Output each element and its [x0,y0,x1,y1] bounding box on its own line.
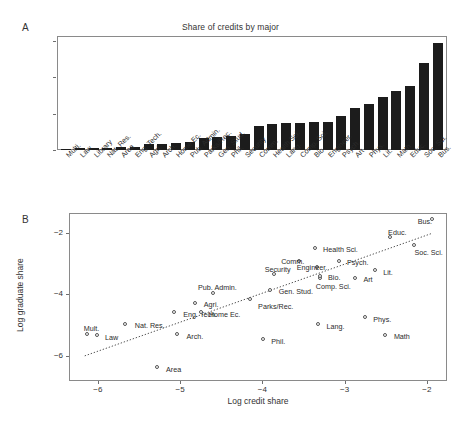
scatter-label-health-sci: Health Sci. [323,245,358,254]
scatter-point-home-ec [199,310,203,314]
panel-b-y-tick-label: −4 [54,289,63,298]
scatter-label-home-ec: Home Ec. [209,310,241,319]
scatter-point-lit [373,268,377,272]
panel-a-x-axis-labels: Multi.LawLibraryNat. Res.AreaEng. Tech.A… [0,0,461,200]
scatter-label-phil: Phil. [271,337,285,346]
scatter-label-gen-stud: Gen. Stud. [279,287,313,296]
scatter-label-pub-admin: Pub. Admin. [198,283,237,292]
scatter-label-engineer: Engineer. [297,263,327,272]
scatter-point-lang [316,322,320,326]
scatter-label-bio: Bio. [328,273,340,282]
scatter-label-lang: Lang. [326,322,344,331]
panel-b-x-tick [427,381,428,384]
scatter-point-arch [175,332,179,336]
scatter-label-law: Law [105,333,118,342]
scatter-label-agri: Agri. [204,300,219,309]
scatter-label-phys: Phys. [373,315,391,324]
panel-b-x-tick-label: −4 [250,385,274,394]
panel-b-y-tick [66,294,69,295]
panel-b-x-tick [345,381,346,384]
scatter-point-eng-tech [172,310,176,314]
scatter-label-psych: Psych. [347,258,369,267]
scatter-label-lit: Lit. [383,268,393,277]
panel-b-x-tick-label: −3 [333,385,357,394]
scatter-label-parks-rec: Parks/Rec. [258,302,293,311]
scatter-label-soc-sci: Soc. Sci. [414,248,442,257]
scatter-point-parks-rec [248,297,252,301]
scatter-point-gen-stud [268,288,272,292]
scatter-point-law [95,333,99,337]
panel-b-x-tick-label: −2 [415,385,439,394]
panel-b-y-tick-label: −6 [54,351,63,360]
scatter-label-nat-res: Nat. Res. [135,321,165,330]
scatter-label-comp-sci: Comp. Sci. [316,282,351,291]
panel-b-y-tick [66,356,69,357]
scatter-point-phil [261,337,265,341]
panel-b-letter: B [22,214,29,225]
scatter-point-area [155,365,159,369]
figure-root: A Share of credits by major 00.050.10.15… [0,0,461,424]
panel-b-x-tick-label: −5 [168,385,192,394]
panel-b-y-tick [66,233,69,234]
scatter-point-art [353,276,357,280]
panel-b-x-axis-title: Log credit share [69,396,447,406]
scatter-label-bus: Bus. [418,217,432,226]
scatter-label-arch: Arch. [187,332,204,341]
scatter-label-area: Area [166,365,181,374]
scatter-label-art: Art [363,275,372,284]
panel-b-x-tick [180,381,181,384]
scatter-point-nat-res [123,322,127,326]
panel-b-scatter-plot: B Mult.LawNat. Res.AreaArch.Eng. Tech.Ag… [0,200,461,424]
panel-b-plot-frame: Mult.LawNat. Res.AreaArch.Eng. Tech.Agri… [69,213,447,381]
panel-b-x-tick-label: −6 [86,385,110,394]
panel-b-x-tick [98,381,99,384]
scatter-point-psych [337,259,341,263]
panel-b-y-tick-label: −2 [54,228,63,237]
scatter-point-health-sci [313,246,317,250]
panel-a-bar-chart: A Share of credits by major 00.050.10.15… [0,0,461,200]
scatter-point-math [383,333,387,337]
scatter-label-educ: Educ. [388,228,406,237]
scatter-point-agri [193,301,197,305]
scatter-label-math: Math [394,332,410,341]
panel-b-x-tick [262,381,263,384]
scatter-point-soc-sci [412,243,416,247]
scatter-label-mult: Mult. [84,324,100,333]
panel-b-y-axis-title: Log graduate share [15,235,25,355]
scatter-point-phys [363,315,367,319]
